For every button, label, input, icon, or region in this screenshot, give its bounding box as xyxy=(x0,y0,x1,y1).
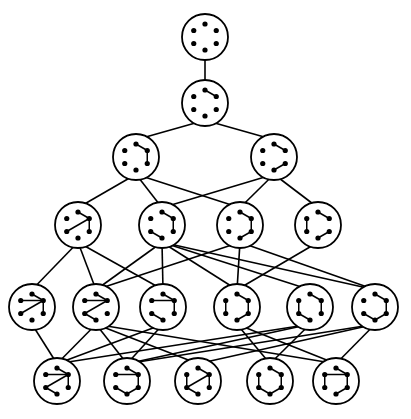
graph-vertex xyxy=(105,298,110,303)
graph-vertex xyxy=(160,291,165,296)
graph-vertex xyxy=(93,291,98,296)
graph-vertex xyxy=(195,391,200,396)
graph-vertex xyxy=(260,148,265,153)
graph-vertex xyxy=(64,216,69,221)
graph-vertex xyxy=(29,291,34,296)
graph-node-L6e xyxy=(313,358,359,404)
graph-vertex xyxy=(87,216,92,221)
graph-vertex xyxy=(191,41,196,46)
graph-vertex xyxy=(223,298,228,303)
graph-vertex xyxy=(214,28,219,33)
node-circle xyxy=(352,284,398,330)
graph-vertex xyxy=(267,391,272,396)
graph-vertex xyxy=(237,209,242,214)
node-circle xyxy=(140,284,186,330)
graph-vertex xyxy=(296,311,301,316)
graph-vertex xyxy=(283,148,288,153)
graph-vertex xyxy=(214,94,219,99)
graph-vertex xyxy=(75,209,80,214)
graph-vertex xyxy=(54,391,59,396)
graph-vertex xyxy=(319,311,324,316)
graph-vertex xyxy=(267,365,272,370)
graph-vertex xyxy=(160,317,165,322)
node-circle xyxy=(182,80,228,126)
graph-vertex xyxy=(271,141,276,146)
graph-vertex xyxy=(372,291,377,296)
hasse-link xyxy=(136,174,240,208)
node-circle xyxy=(217,202,263,248)
graph-vertex xyxy=(82,311,87,316)
graph-vertex xyxy=(105,311,110,316)
graph-vertex xyxy=(296,298,301,303)
graph-vertex xyxy=(237,235,242,240)
graph-vertex xyxy=(113,385,118,390)
graph-vertex xyxy=(64,229,69,234)
graph-vertex xyxy=(226,216,231,221)
hasse-link xyxy=(162,242,375,290)
graph-vertex xyxy=(304,229,309,234)
graph-vertex xyxy=(18,298,23,303)
hasse-link xyxy=(96,242,240,290)
hasse-link xyxy=(162,242,310,290)
graph-vertex xyxy=(307,291,312,296)
graph-vertex xyxy=(304,216,309,221)
graph-vertex xyxy=(133,141,138,146)
graph-vertex xyxy=(345,372,350,377)
node-circle xyxy=(104,358,150,404)
graph-node-L4a xyxy=(55,202,101,248)
graph-vertex xyxy=(41,298,46,303)
graph-node-L2 xyxy=(182,80,228,126)
graph-vertex xyxy=(234,291,239,296)
graph-vertex xyxy=(345,385,350,390)
hasse-diagram xyxy=(0,0,411,419)
graph-vertex xyxy=(202,113,207,118)
graph-vertex xyxy=(113,372,118,377)
hasse-link xyxy=(96,242,162,290)
node-circle xyxy=(313,358,359,404)
graph-vertex xyxy=(327,216,332,221)
graph-vertex xyxy=(184,372,189,377)
graph-vertex xyxy=(159,235,164,240)
graph-vertex xyxy=(29,317,34,322)
node-circle xyxy=(182,14,228,60)
graph-vertex xyxy=(202,47,207,52)
graph-node-L6c xyxy=(175,358,221,404)
graph-vertex xyxy=(327,229,332,234)
graph-vertex xyxy=(279,385,284,390)
graph-vertex xyxy=(260,161,265,166)
graph-vertex xyxy=(322,385,327,390)
graph-vertex xyxy=(207,385,212,390)
graph-vertex xyxy=(184,385,189,390)
hasse-link xyxy=(32,242,78,290)
graph-vertex xyxy=(172,311,177,316)
diagram-canvas xyxy=(0,0,411,419)
graph-vertex xyxy=(87,229,92,234)
graph-node-L6b xyxy=(104,358,150,404)
graph-vertex xyxy=(195,365,200,370)
graph-vertex xyxy=(361,311,366,316)
graph-node-L3b xyxy=(251,134,297,180)
node-circle xyxy=(295,202,341,248)
hasse-link xyxy=(162,242,163,290)
graph-vertex xyxy=(145,161,150,166)
graph-vertex xyxy=(122,148,127,153)
graph-vertex xyxy=(315,209,320,214)
graph-vertex xyxy=(226,229,231,234)
graph-vertex xyxy=(315,235,320,240)
graph-node-L5c xyxy=(140,284,186,330)
graph-vertex xyxy=(133,167,138,172)
graph-node-L5a xyxy=(9,284,55,330)
graph-vertex xyxy=(93,317,98,322)
graph-vertex xyxy=(149,298,154,303)
graph-vertex xyxy=(43,372,48,377)
hasse-link xyxy=(78,242,96,290)
graph-vertex xyxy=(234,317,239,322)
graph-vertex xyxy=(149,311,154,316)
graph-vertex xyxy=(333,365,338,370)
graph-vertex xyxy=(202,21,207,26)
graph-vertex xyxy=(159,209,164,214)
graph-vertex xyxy=(384,311,389,316)
hasse-link xyxy=(78,174,136,208)
graph-node-L5e xyxy=(287,284,333,330)
graph-node-L5b xyxy=(73,284,119,330)
